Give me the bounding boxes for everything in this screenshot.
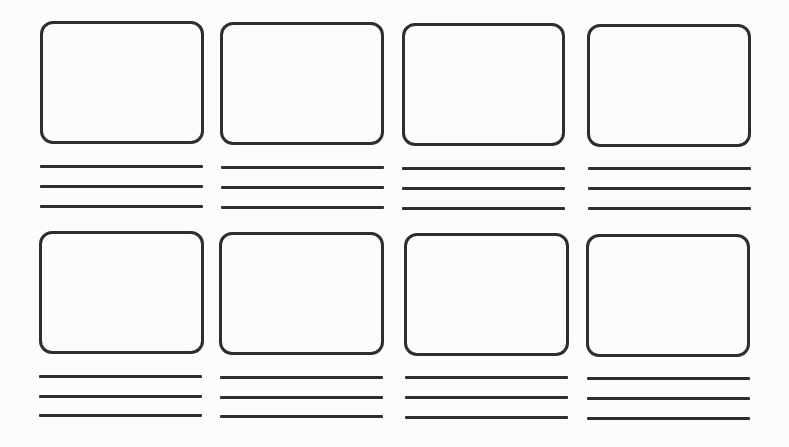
caption-line-1-3 [40, 205, 203, 208]
caption-line-8-1 [587, 377, 750, 380]
caption-line-4-1 [588, 167, 751, 170]
storyboard-frame-1 [40, 21, 204, 144]
storyboard-sheet [0, 0, 789, 447]
caption-line-5-2 [39, 395, 202, 398]
storyboard-frame-5 [39, 231, 204, 354]
caption-line-8-3 [587, 417, 750, 420]
caption-line-4-3 [588, 207, 751, 210]
storyboard-frame-6 [219, 232, 384, 355]
caption-line-3-3 [402, 207, 565, 210]
storyboard-frame-4 [587, 24, 751, 147]
storyboard-frame-2 [220, 22, 384, 145]
caption-line-1-2 [40, 185, 203, 188]
caption-line-2-3 [221, 206, 384, 209]
caption-line-2-2 [221, 186, 384, 189]
storyboard-frame-3 [402, 23, 565, 146]
caption-line-2-1 [221, 166, 384, 169]
caption-line-7-1 [405, 376, 568, 379]
caption-line-1-1 [40, 165, 203, 168]
caption-line-8-2 [587, 397, 750, 400]
caption-line-5-1 [39, 375, 202, 378]
caption-line-7-2 [405, 396, 568, 399]
caption-line-6-3 [220, 415, 383, 418]
caption-line-6-1 [220, 376, 383, 379]
caption-line-5-3 [39, 414, 202, 417]
caption-line-3-1 [402, 167, 565, 170]
storyboard-frame-7 [404, 233, 569, 356]
storyboard-frame-8 [586, 234, 750, 357]
caption-line-7-3 [405, 416, 568, 419]
caption-line-3-2 [402, 187, 565, 190]
caption-line-4-2 [588, 187, 751, 190]
caption-line-6-2 [220, 396, 383, 399]
